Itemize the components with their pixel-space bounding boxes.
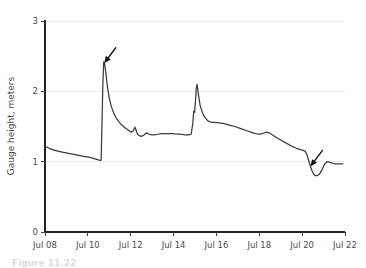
arrow-late-dip-shaft xyxy=(314,150,323,162)
y-axis-tick-labels: 0123 xyxy=(33,16,38,237)
arrow-first-peak-head xyxy=(104,56,111,63)
data-series xyxy=(45,62,343,176)
x-tick-label: Jul 20 xyxy=(289,240,314,250)
y-tick-label: 3 xyxy=(33,16,38,26)
series-line-gauge-height xyxy=(45,62,343,176)
x-tick-label: Jul 18 xyxy=(246,240,271,250)
arrow-late-dip-head xyxy=(310,159,317,166)
x-tick-label: Jul 14 xyxy=(161,240,186,250)
x-tick-label: Jul 22 xyxy=(332,240,357,250)
x-tick-label: Jul 12 xyxy=(118,240,143,250)
figure-caption: Figure 11.22 xyxy=(0,258,366,268)
y-tick-label: 1 xyxy=(33,157,38,167)
annotation-arrows xyxy=(104,48,322,167)
axes xyxy=(45,20,345,232)
tick-marks xyxy=(41,21,345,236)
x-tick-label: Jul 16 xyxy=(204,240,229,250)
arrow-first-peak-shaft xyxy=(107,48,115,59)
x-tick-label: Jul 10 xyxy=(75,240,100,250)
gridlines xyxy=(45,21,345,162)
y-tick-label: 0 xyxy=(33,227,38,237)
y-axis-title: Gauge height, meters xyxy=(6,76,16,175)
y-tick-label: 2 xyxy=(33,86,38,96)
figure-container: Jul 08Jul 10Jul 12Jul 14Jul 16Jul 18Jul … xyxy=(0,0,366,268)
x-axis-tick-labels: Jul 08Jul 10Jul 12Jul 14Jul 16Jul 18Jul … xyxy=(32,240,357,250)
gauge-height-line-chart: Jul 08Jul 10Jul 12Jul 14Jul 16Jul 18Jul … xyxy=(0,0,366,268)
x-tick-label: Jul 08 xyxy=(32,240,57,250)
figure-caption-strip: Figure 11.22 xyxy=(0,258,366,268)
